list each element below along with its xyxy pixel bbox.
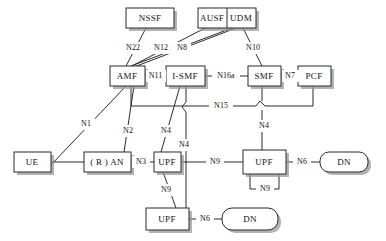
node-label-pcf: PCF (306, 71, 323, 81)
svg-text:N12: N12 (154, 43, 168, 52)
link-n2 (124, 86, 134, 152)
link-label-n12: N12 (149, 42, 173, 54)
link-label-n1: N1 (77, 118, 95, 130)
link-label-n6-b: N6 (196, 213, 214, 225)
svg-text:N4: N4 (259, 121, 269, 130)
node-amf[interactable]: AMF (110, 66, 148, 89)
node-dn-2[interactable]: DN (222, 208, 281, 233)
node-label-ausf: AUSF (200, 13, 224, 23)
svg-text:N6: N6 (200, 214, 210, 223)
svg-text:N7: N7 (285, 71, 295, 80)
svg-text:N9: N9 (210, 157, 220, 166)
svg-text:N1: N1 (81, 119, 91, 128)
link-label-n15: N15 (209, 100, 233, 112)
node-label-udm: UDM (230, 13, 252, 23)
svg-text:N22: N22 (126, 43, 140, 52)
svg-text:N6: N6 (297, 157, 307, 166)
svg-text:N4: N4 (179, 140, 189, 149)
link-n4-ismf-upf3-hop (182, 102, 186, 112)
node-upf-1[interactable]: UPF (154, 152, 184, 175)
link-label-n11: N11 (146, 70, 166, 82)
svg-text:N4: N4 (161, 126, 171, 135)
svg-text:N15: N15 (214, 101, 228, 110)
diagram-canvas: NSSF AUSF UDM AMF I-SMF (0, 0, 386, 241)
link-label-n10: N10 (241, 42, 265, 54)
link-label-n6-a: N6 (293, 156, 311, 168)
network-architecture-diagram: NSSF AUSF UDM AMF I-SMF (0, 0, 386, 241)
link-label-n16a: N16a (212, 70, 240, 82)
node-label-upf-1: UPF (158, 157, 175, 167)
svg-text:N10: N10 (246, 43, 260, 52)
svg-text:N11: N11 (149, 71, 162, 80)
node-upf-2[interactable]: UPF (243, 150, 289, 177)
node-ausf-udm[interactable]: AUSF UDM (198, 8, 259, 31)
link-label-n3: N3 (132, 156, 150, 168)
link-label-n4-a: N4 (157, 125, 175, 137)
node-upf-3[interactable]: UPF (146, 208, 192, 233)
node-label-smf: SMF (255, 71, 274, 81)
node-label-amf: AMF (117, 71, 137, 81)
svg-text:N9: N9 (260, 184, 270, 193)
node-label-dn-1: DN (337, 157, 351, 167)
link-label-n9-b: N9 (157, 184, 175, 196)
svg-text:N3: N3 (136, 157, 146, 166)
node-ue[interactable]: UE (14, 152, 54, 175)
node-ran[interactable]: ( R ) AN (84, 152, 134, 175)
node-pcf[interactable]: PCF (298, 66, 334, 89)
link-label-n8: N8 (173, 42, 191, 54)
node-label-nssf: NSSF (139, 13, 162, 23)
link-label-n7: N7 (282, 70, 299, 82)
node-layer: NSSF AUSF UDM AMF I-SMF (14, 8, 371, 233)
svg-text:N8: N8 (177, 43, 187, 52)
link-label-n2: N2 (119, 125, 137, 137)
node-smf[interactable]: SMF (248, 66, 284, 89)
link-label-n4-b: N4 (175, 139, 193, 151)
node-label-upf-3: UPF (158, 214, 175, 224)
svg-text:N16a: N16a (217, 71, 235, 80)
node-nssf[interactable]: NSSF (126, 8, 177, 31)
svg-text:N2: N2 (123, 126, 133, 135)
node-label-ismf: I-SMF (172, 71, 198, 81)
link-label-n9-a: N9 (206, 156, 224, 168)
node-label-ue: UE (26, 157, 39, 167)
link-label-n4-c: N4 (255, 120, 273, 132)
node-ismf[interactable]: I-SMF (166, 66, 208, 89)
link-label-n22: N22 (121, 42, 145, 54)
node-label-dn-2: DN (243, 214, 257, 224)
node-label-upf-2: UPF (255, 157, 272, 167)
node-dn-1[interactable]: DN (320, 152, 371, 175)
link-label-n9-c: N9 (256, 183, 274, 195)
svg-text:N9: N9 (161, 185, 171, 194)
node-label-ran: ( R ) AN (90, 157, 124, 167)
link-n15-hop (256, 101, 265, 106)
